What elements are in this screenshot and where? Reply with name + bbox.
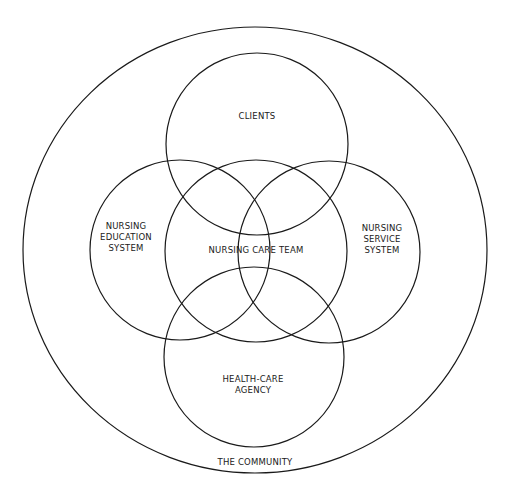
- community-label: THE COMMUNITY: [216, 457, 293, 467]
- clients-label: CLIENTS: [239, 111, 276, 121]
- clients-circle: [166, 53, 348, 235]
- health-care-agency-label: HEALTH-CAREAGENCY: [222, 374, 283, 395]
- nursing-service-system-label: NURSINGSERVICESYSTEM: [362, 223, 403, 255]
- community-venn-diagram: CLIENTSNURSINGEDUCATIONSYSTEMNURSING CAR…: [0, 0, 508, 496]
- health-care-agency-circle: [164, 267, 344, 447]
- nursing-education-system-label: NURSINGEDUCATIONSYSTEM: [100, 221, 152, 253]
- nursing-care-team-label: NURSING CARE TEAM: [209, 245, 304, 255]
